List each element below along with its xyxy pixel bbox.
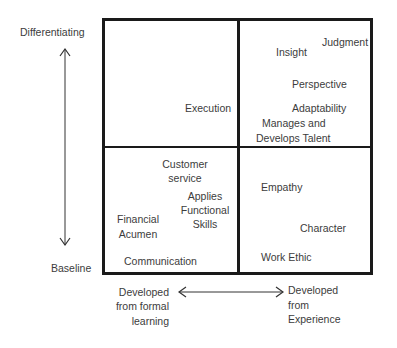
vertical-double-arrow-icon: [58, 48, 72, 248]
x-axis-right-label-line3: Experience: [288, 312, 341, 326]
item-adaptability: Adaptability: [292, 101, 346, 115]
item-develops-talent: Develops Talent: [256, 131, 331, 145]
horizontal-double-arrow-icon: [178, 286, 284, 298]
item-empathy: Empathy: [261, 180, 302, 194]
item-insight: Insight: [276, 45, 307, 59]
x-axis-left-label-line2: from formal: [100, 299, 169, 313]
item-communication: Communication: [124, 254, 197, 268]
grid-horizontal-divider: [102, 146, 373, 148]
item-character: Character: [300, 221, 346, 235]
item-perspective: Perspective: [292, 77, 347, 91]
item-acumen: Acumen: [108, 227, 168, 241]
item-applies: Applies: [170, 189, 240, 203]
item-skills: Skills: [170, 217, 240, 231]
x-axis-right-label-line2: from: [288, 298, 309, 312]
item-execution: Execution: [185, 101, 231, 115]
item-financial: Financial: [108, 212, 168, 226]
item-service: service: [150, 171, 220, 185]
item-work-ethic: Work Ethic: [261, 250, 312, 264]
item-functional: Functional: [170, 203, 240, 217]
item-judgment: Judgment: [322, 35, 368, 49]
x-axis-left-label-line3: learning: [100, 314, 169, 328]
item-customer: Customer: [150, 157, 220, 171]
y-axis-top-label: Differentiating: [20, 25, 85, 39]
y-axis-bottom-label: Baseline: [51, 261, 91, 275]
item-manages-and: Manages and: [262, 116, 326, 130]
x-axis-left-label-line1: Developed: [100, 285, 169, 299]
x-axis-right-label-line1: Developed: [288, 283, 338, 297]
